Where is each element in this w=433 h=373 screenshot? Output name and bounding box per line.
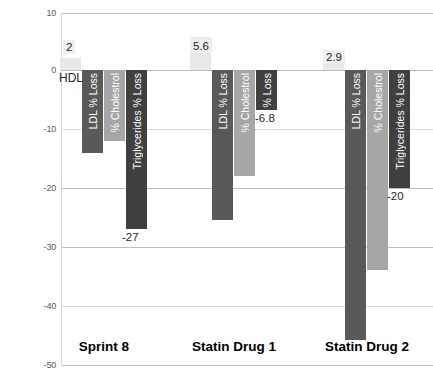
- y-tick-n20: -20: [0, 183, 56, 193]
- gridline-n40: [62, 306, 433, 307]
- category-label-sprint8: Sprint 8: [79, 339, 129, 354]
- value-label-statin2-hdl: 2.9: [323, 50, 345, 64]
- category-label-statin2: Statin Drug 2: [325, 339, 409, 354]
- bar-sprint8-triglycerides[interactable]: Triglycerides % Loss: [126, 70, 147, 229]
- bar-caption-ldl: LDL % Loss: [217, 73, 229, 129]
- bar-caption-ldl: LDL % Loss: [87, 73, 99, 129]
- bar-statin1-ldl[interactable]: LDL % Loss: [212, 70, 233, 220]
- bar-caption-cholesterol: % Cholestrol: [109, 73, 121, 133]
- bar-sprint8-cholesterol[interactable]: % Cholestrol: [104, 70, 125, 141]
- value-label-statin2-triglycerides: -20: [387, 190, 404, 202]
- y-tick-n50: -50: [0, 360, 56, 370]
- bar-statin2-cholesterol[interactable]: % Cholestrol: [367, 70, 388, 270]
- bar-caption-triglycerides: Triglycerides % Loss: [131, 73, 143, 169]
- bar-caption-ldl: LDL % Loss: [350, 73, 362, 129]
- bar-chart: 10 0 -10 -20 -30 -40 -50 Percentage (%) …: [0, 0, 433, 373]
- y-axis-ticks: 10 0 -10 -20 -30 -40 -50: [0, 0, 56, 373]
- value-label-sprint8-triglycerides: -27: [122, 231, 139, 243]
- bar-caption-triglycerides: % Loss: [261, 73, 273, 107]
- bar-statin1-triglycerides[interactable]: % Loss: [256, 70, 277, 110]
- plot-area: 2 HDL LDL % Loss % Cholestrol Triglyceri…: [62, 13, 433, 366]
- y-tick-n10: -10: [0, 124, 56, 134]
- hdl-axis-text: HDL: [59, 71, 83, 85]
- bar-sprint8-hdl[interactable]: [60, 58, 81, 70]
- bar-sprint8-ldl[interactable]: LDL % Loss: [82, 70, 103, 153]
- y-tick-10: 10: [0, 8, 56, 18]
- y-tick-n30: -30: [0, 242, 56, 252]
- gridline-10: [62, 13, 433, 14]
- y-tick-n40: -40: [0, 301, 56, 311]
- value-label-sprint8-hdl: 2: [63, 40, 75, 54]
- bar-statin2-ldl[interactable]: LDL % Loss: [345, 70, 366, 340]
- bar-statin1-cholesterol[interactable]: % Cholestrol: [234, 70, 255, 176]
- category-label-statin1: Statin Drug 1: [192, 339, 276, 354]
- bar-caption-triglycerides: Triglycerides % Loss: [394, 73, 406, 169]
- y-tick-0: 0: [0, 65, 56, 75]
- bar-caption-cholesterol: % Cholestrol: [372, 73, 384, 133]
- value-label-statin1-hdl: 5.6: [190, 39, 212, 53]
- value-label-statin1-triglycerides: -6.8: [255, 112, 275, 124]
- chart-title: [0, 0, 433, 1]
- gridline-n50: [62, 365, 433, 366]
- bar-statin2-triglycerides[interactable]: Triglycerides % Loss: [389, 70, 410, 188]
- bar-caption-cholesterol: % Cholestrol: [239, 73, 251, 133]
